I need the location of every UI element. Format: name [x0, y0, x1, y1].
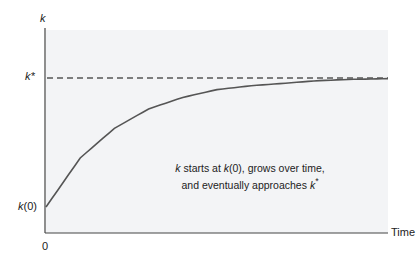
annotation-text-a: starts at [181, 162, 224, 174]
x-axis-label: Time [391, 226, 415, 238]
annotation-text-c: and eventually approaches [181, 179, 309, 191]
annotation-line-2: and eventually approaches k* [150, 175, 350, 192]
chart-canvas [0, 0, 418, 256]
plot-background [46, 30, 388, 233]
curve-annotation: k starts at k(0), grows over time, and e… [150, 162, 350, 192]
annotation-text-b: (0), grows over time, [229, 162, 325, 174]
annotation-line-1: k starts at k(0), grows over time, [150, 162, 350, 175]
k-star-tick-label: k* [25, 70, 35, 82]
k-zero-tick-label: k(0) [18, 200, 37, 212]
y-axis-label: k [40, 12, 46, 24]
annotation-star: * [315, 176, 318, 186]
x-origin-label: 0 [42, 240, 48, 252]
k-zero-paren: (0) [24, 200, 37, 212]
